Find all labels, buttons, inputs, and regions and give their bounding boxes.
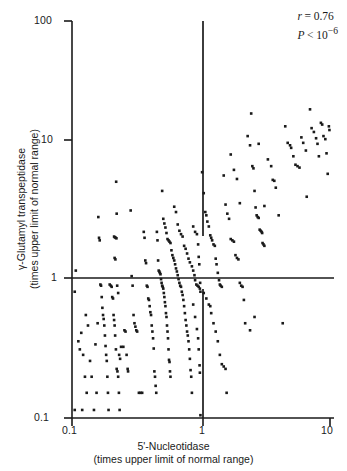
data-point	[192, 269, 195, 272]
data-point	[214, 245, 217, 248]
data-point	[208, 225, 211, 228]
data-point	[153, 370, 156, 373]
data-point	[149, 311, 152, 314]
data-point	[201, 171, 204, 174]
data-point	[186, 252, 189, 255]
data-point	[175, 267, 178, 270]
data-point	[181, 235, 184, 238]
data-point	[169, 375, 172, 378]
data-point	[202, 292, 205, 295]
data-point	[253, 190, 256, 193]
data-point	[233, 169, 236, 172]
data-point	[114, 258, 117, 261]
data-point	[199, 290, 202, 293]
data-point	[167, 348, 170, 351]
data-point	[73, 409, 76, 412]
data-point	[124, 330, 127, 333]
data-point	[178, 282, 181, 285]
data-point	[257, 143, 260, 146]
data-point	[184, 247, 187, 250]
data-point	[183, 305, 186, 308]
data-point	[252, 167, 255, 170]
data-point	[85, 392, 88, 395]
data-point	[197, 243, 200, 246]
data-point	[184, 319, 187, 322]
data-point	[188, 348, 191, 351]
data-point	[218, 279, 221, 282]
data-point	[168, 361, 171, 364]
data-point	[221, 363, 224, 366]
data-point	[148, 299, 151, 302]
scatter-plot-figure: 100 10 1 0.1 0.1 1 10 r = 0.76 P < 10−6 …	[0, 0, 347, 471]
data-point	[170, 249, 173, 252]
data-point	[156, 239, 159, 242]
x-tick-label-0.1: 0.1	[62, 424, 77, 436]
data-point	[321, 123, 324, 126]
x-axis-label: 5'-Nucleotidase (times upper limit of no…	[0, 440, 347, 466]
data-point	[204, 211, 207, 214]
data-point	[189, 261, 192, 264]
data-point	[176, 270, 179, 273]
data-point	[193, 274, 196, 277]
data-point	[196, 233, 199, 236]
data-point	[164, 301, 167, 304]
data-point	[298, 166, 301, 169]
data-point	[197, 348, 200, 351]
data-point	[209, 305, 212, 308]
data-point	[224, 368, 227, 371]
data-point	[221, 286, 224, 289]
data-point	[254, 206, 257, 209]
data-point	[173, 205, 176, 208]
data-point	[173, 259, 176, 262]
y-axis-label: γ-Glutamyl transpeptidase (times upper l…	[15, 99, 41, 319]
x-axis-label-sub: (times upper limit of normal range)	[0, 453, 347, 466]
correlation-symbol: r	[298, 10, 302, 22]
data-point	[286, 142, 289, 145]
data-point	[96, 322, 99, 325]
data-point	[305, 149, 308, 152]
data-point	[84, 375, 87, 378]
data-point	[249, 329, 252, 332]
data-point	[152, 337, 155, 340]
data-point	[154, 385, 157, 388]
data-point	[100, 296, 103, 299]
correlation-value: = 0.76	[304, 10, 334, 22]
data-point	[180, 286, 183, 289]
data-point	[155, 392, 158, 395]
data-point	[194, 279, 197, 282]
data-point	[210, 312, 213, 315]
data-point	[98, 237, 101, 240]
data-point	[118, 392, 121, 395]
data-point	[289, 144, 292, 147]
data-point	[244, 322, 247, 325]
data-point	[318, 155, 321, 158]
data-point	[130, 275, 133, 278]
data-point	[190, 375, 193, 378]
data-point	[164, 226, 167, 229]
data-point	[237, 258, 240, 261]
data-point	[324, 138, 327, 141]
data-point	[103, 324, 106, 327]
data-point	[202, 192, 205, 195]
data-point	[159, 273, 162, 276]
data-point	[115, 180, 118, 183]
data-point	[131, 284, 134, 287]
data-point	[189, 369, 192, 372]
data-point	[90, 375, 93, 378]
y-tick-label-0.1: 0.1	[34, 411, 49, 423]
data-point	[166, 330, 169, 333]
data-point	[171, 254, 174, 257]
data-point	[118, 409, 121, 412]
data-point	[274, 186, 277, 189]
data-point	[113, 319, 116, 322]
data-point	[142, 231, 145, 234]
data-point	[292, 155, 295, 158]
data-point	[234, 254, 237, 257]
data-point	[93, 409, 96, 412]
data-point	[113, 324, 116, 327]
data-point	[226, 212, 229, 215]
data-point	[284, 125, 287, 128]
data-point	[160, 278, 163, 281]
data-point	[77, 340, 80, 343]
data-point	[114, 334, 117, 337]
